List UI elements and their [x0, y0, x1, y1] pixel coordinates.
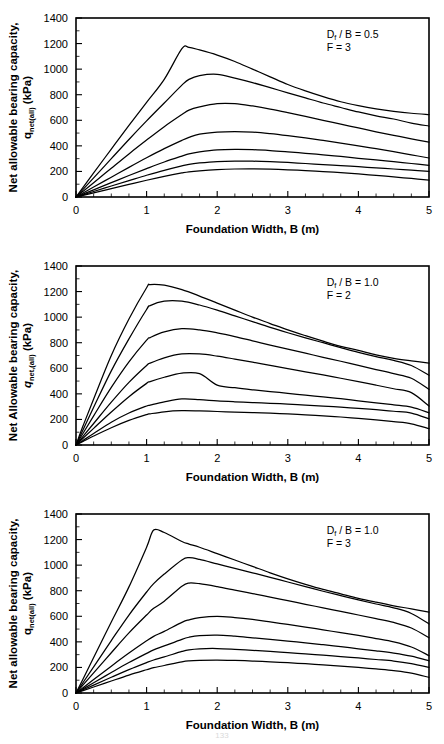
y-tick-label: 1200 [44, 38, 68, 50]
y-tick-label: 0 [62, 191, 68, 203]
data-curve [76, 648, 429, 693]
y-tick-label: 0 [62, 687, 68, 699]
x-tick-label: 0 [73, 452, 79, 464]
y-tick-label: 0 [62, 439, 68, 451]
x-tick-label: 2 [214, 700, 220, 712]
data-curve [76, 411, 429, 445]
chart-2: 0200400600800100012001400012345Foundatio… [0, 248, 444, 496]
y-tick-label: 1400 [44, 508, 68, 520]
data-curve [76, 616, 429, 693]
y-tick-label: 1400 [44, 260, 68, 272]
x-tick-label: 2 [214, 204, 220, 216]
y-tick-label: 1000 [44, 63, 68, 75]
chart-annotation: F = 3 [327, 537, 351, 549]
y-tick-label: 1000 [44, 311, 68, 323]
y-tick-label: 400 [50, 388, 68, 400]
y-axis-title-line1: Net allowable bearing capacity, [7, 519, 19, 689]
data-curve [76, 372, 429, 445]
y-tick-label: 800 [50, 337, 68, 349]
x-tick-label: 5 [426, 204, 432, 216]
y-tick-label: 800 [50, 89, 68, 101]
y-tick-label: 200 [50, 165, 68, 177]
data-curve [76, 149, 429, 197]
y-tick-label: 200 [50, 413, 68, 425]
y-tick-label: 600 [50, 362, 68, 374]
data-curve [76, 132, 429, 197]
y-tick-label: 200 [50, 661, 68, 673]
figure-page: 0200400600800100012001400012345Foundatio… [0, 0, 444, 744]
x-tick-label: 4 [355, 700, 361, 712]
x-axis-title: Foundation Width, B (m) [186, 471, 320, 483]
data-curve [76, 301, 429, 445]
x-tick-label: 2 [214, 452, 220, 464]
chart-annotation: F = 2 [327, 289, 351, 301]
y-axis-title: Net allowable bearing capacity,qnet(all)… [7, 23, 36, 193]
y-axis-title-line2: qnet(all) (kPa) [21, 76, 36, 139]
y-tick-label: 1200 [44, 534, 68, 546]
x-tick-label: 1 [144, 204, 150, 216]
y-axis-title-line1: Net allowable bearing capacity, [7, 23, 19, 193]
chart-panel-3: 0200400600800100012001400012345Foundatio… [0, 496, 444, 744]
data-curve [76, 169, 429, 197]
y-axis-title: Net allowable bearing capacity,qnet(all)… [7, 519, 36, 689]
x-tick-label: 1 [144, 452, 150, 464]
y-axis-title: Net Allowable bearing capacity,qnet,(all… [7, 270, 36, 441]
data-curve [76, 354, 429, 445]
chart-panel-2: 0200400600800100012001400012345Foundatio… [0, 248, 444, 496]
data-curve [76, 329, 429, 445]
data-curve [76, 399, 429, 445]
chart-panel-1: 0200400600800100012001400012345Foundatio… [0, 0, 444, 248]
y-tick-label: 400 [50, 140, 68, 152]
y-axis-title-line2: qnet,(all) (kPa) [21, 323, 36, 388]
y-tick-label: 1000 [44, 559, 68, 571]
data-curve [76, 46, 429, 197]
y-axis-title-line2: qnet(all) (kPa) [21, 572, 36, 635]
x-axis-title: Foundation Width, B (m) [186, 719, 320, 731]
x-tick-label: 3 [285, 700, 291, 712]
x-tick-label: 3 [285, 452, 291, 464]
x-tick-label: 3 [285, 204, 291, 216]
x-tick-label: 1 [144, 700, 150, 712]
x-tick-label: 4 [355, 452, 361, 464]
data-curve [76, 660, 429, 693]
data-curve [76, 161, 429, 197]
y-axis-title-line1: Net Allowable bearing capacity, [7, 270, 19, 441]
chart-3: 0200400600800100012001400012345Foundatio… [0, 496, 444, 744]
y-tick-label: 1400 [44, 12, 68, 24]
y-tick-label: 600 [50, 114, 68, 126]
x-tick-label: 0 [73, 204, 79, 216]
data-curve [76, 74, 429, 197]
data-curve [76, 635, 429, 693]
x-tick-label: 5 [426, 452, 432, 464]
y-tick-label: 800 [50, 585, 68, 597]
y-tick-label: 400 [50, 636, 68, 648]
x-tick-label: 0 [73, 700, 79, 712]
chart-annotation: F = 3 [327, 41, 351, 53]
x-axis-title: Foundation Width, B (m) [186, 223, 320, 235]
plot-frame [76, 18, 429, 197]
y-tick-label: 600 [50, 610, 68, 622]
x-tick-label: 5 [426, 700, 432, 712]
chart-1: 0200400600800100012001400012345Foundatio… [0, 0, 444, 248]
y-tick-label: 1200 [44, 286, 68, 298]
x-tick-label: 4 [355, 204, 361, 216]
page-number: 133 [0, 731, 444, 740]
data-curve [76, 558, 429, 693]
